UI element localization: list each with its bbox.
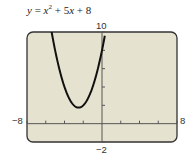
y-min-label: −2	[96, 144, 107, 155]
x-min-label: −8	[12, 115, 23, 126]
x-max-label: 8	[180, 115, 185, 126]
y-max-label: 10	[96, 20, 107, 31]
